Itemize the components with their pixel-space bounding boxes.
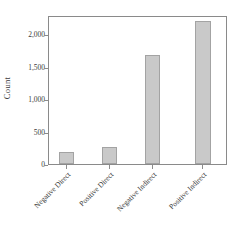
x-axis-tick-label-text: Negative Indirect (115, 170, 158, 213)
y-axis-title-text: Count (2, 76, 12, 98)
y-axis-title: Count (0, 0, 14, 175)
x-axis-tick-label: Positive Indirect (160, 170, 209, 219)
y-axis-tick-label: 2,000 (15, 31, 45, 39)
bar (102, 147, 117, 164)
plot-area (48, 16, 227, 165)
bar-chart: Count 05001,0001,5002,000 Negative Direc… (0, 0, 244, 235)
x-axis-tick-label: Negative Indirect (109, 170, 158, 219)
x-axis-tick-label: Positive Direct (66, 170, 115, 219)
bar (195, 21, 210, 164)
y-axis-tick-labels: 05001,0001,5002,000 (13, 0, 45, 235)
y-axis-tick-label: 500 (15, 129, 45, 137)
y-axis-tick-label: 1,500 (15, 64, 45, 72)
x-axis-tick-mark (109, 165, 110, 169)
x-axis-tick-mark (152, 165, 153, 169)
y-axis-tick-mark (44, 165, 48, 166)
bar (59, 152, 74, 164)
x-axis-tick-label-text: Positive Indirect (167, 170, 208, 211)
bar (145, 55, 160, 164)
x-axis-tick-label-text: Positive Direct (77, 170, 115, 208)
x-axis-tick-mark (66, 165, 67, 169)
y-axis-tick-label: 0 (15, 161, 45, 169)
x-axis-tick-mark (202, 165, 203, 169)
y-axis-tick-label: 1,000 (15, 96, 45, 104)
